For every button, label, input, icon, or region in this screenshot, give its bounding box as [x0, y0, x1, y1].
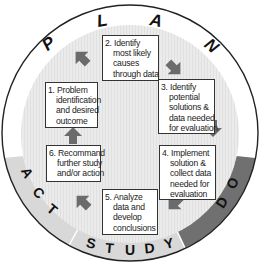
step-1-number: 1.	[48, 85, 55, 95]
step-6-number: 6.	[49, 148, 56, 158]
step-5-number: 5.	[105, 192, 112, 202]
step-4-line-3: collect data	[162, 168, 213, 178]
step-1-line-2: identification	[48, 95, 95, 105]
step-1-line-4: outcome	[48, 116, 95, 126]
step-3-line-4: data needed	[161, 113, 212, 123]
step-6-box: 6. Recommand further study and/or action	[46, 145, 101, 182]
step-6-line-3: and/or action	[49, 168, 98, 178]
step-4-box: 4. Implement solution & collect data nee…	[159, 145, 216, 200]
step-5-line-1: Analyze	[114, 192, 143, 202]
step-1-line-3: and desired	[48, 105, 95, 115]
step-2-line-4: through data	[105, 69, 156, 79]
step-2-line-3: causes	[105, 58, 156, 68]
step-3-line-2: potential	[161, 92, 212, 102]
step-2-number: 2.	[105, 38, 112, 48]
step-4-line-5: evaluation	[162, 189, 213, 199]
step-4-line-4: needed for	[162, 179, 213, 189]
step-5-line-3: develop	[105, 212, 155, 222]
step-2-line-2: most likely	[105, 48, 156, 58]
step-6-line-1: Recommand	[58, 148, 105, 158]
step-2-box: 2. Identify most likely causes through d…	[102, 35, 159, 81]
step-5-line-2: data and	[105, 202, 155, 212]
study-letter-d: D	[144, 240, 156, 257]
step-3-line-1: Identify	[170, 82, 196, 92]
step-4-line-1: Implement	[171, 148, 209, 158]
step-2-line-1: Identify	[114, 38, 140, 48]
step-1-line-1: Problem	[57, 85, 88, 95]
step-5-line-4: conclusions	[105, 223, 155, 233]
step-4-number: 4.	[162, 148, 169, 158]
step-3-line-5: for evaluation	[161, 123, 212, 133]
step-5-box: 5. Analyze data and develop conclusions	[102, 189, 158, 235]
step-4-line-2: solution &	[162, 158, 213, 168]
step-6-line-2: further study	[49, 158, 98, 168]
step-3-line-3: solutions &	[161, 102, 212, 112]
step-3-number: 3.	[161, 82, 168, 92]
study-letter-u: U	[125, 242, 135, 258]
step-3-box: 3. Identify potential solutions & data n…	[158, 79, 215, 134]
step-1-box: 1. Problem identification and desired ou…	[45, 82, 98, 128]
